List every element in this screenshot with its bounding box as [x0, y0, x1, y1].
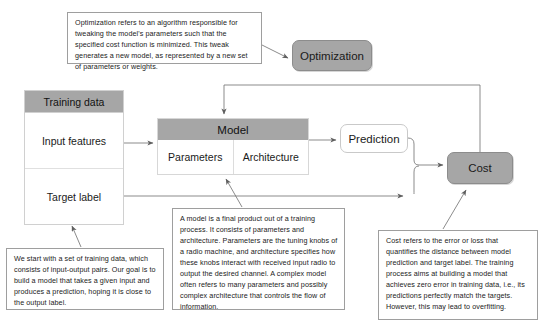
training-data-row-input-features[interactable]: Input features: [25, 113, 123, 169]
leader-note-cost: [443, 190, 466, 229]
diagram-canvas: Training data Input features Target labe…: [0, 0, 550, 333]
optimization-node[interactable]: Optimization: [292, 40, 372, 71]
leader-note-training: [72, 226, 81, 247]
model-table[interactable]: Model Parameters Architecture: [157, 118, 309, 175]
training-data-header: Training data: [25, 91, 123, 113]
note-model: A model is a final product out of a trai…: [172, 208, 345, 310]
note-cost: Cost refers to the error or loss that qu…: [378, 230, 538, 320]
cost-node[interactable]: Cost: [447, 152, 513, 184]
optimization-label: Optimization: [300, 50, 364, 62]
prediction-label: Prediction: [348, 133, 399, 145]
model-columns: Parameters Architecture: [158, 140, 308, 174]
note-optimization: Optimization refers to an algorithm resp…: [67, 12, 262, 64]
model-header: Model: [158, 119, 308, 140]
model-column-parameters[interactable]: Parameters: [158, 140, 234, 174]
wire-prediction-to-merge: [408, 138, 419, 165]
prediction-node[interactable]: Prediction: [340, 124, 408, 153]
model-column-architecture[interactable]: Architecture: [234, 140, 309, 174]
leader-note-optimization: [262, 45, 288, 58]
training-data-table[interactable]: Training data Input features Target labe…: [24, 90, 124, 225]
training-data-row-target-label[interactable]: Target label: [25, 169, 123, 224]
cost-label: Cost: [468, 162, 492, 174]
wire-merge-lower: [414, 166, 419, 194]
leader-note-model: [226, 179, 242, 207]
note-training-data: We start with a set of training data, wh…: [6, 248, 164, 310]
